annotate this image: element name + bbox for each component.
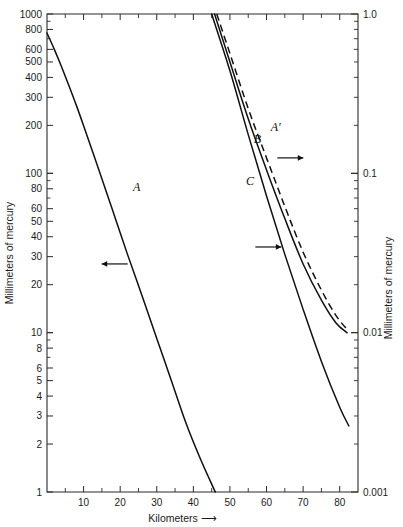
- left-tick-label: 800: [25, 24, 42, 35]
- bottom-tick-label: 40: [188, 497, 200, 508]
- bottom-tick-label: 70: [298, 497, 310, 508]
- left-tick-label: 80: [31, 183, 43, 194]
- left-tick-label: 400: [25, 72, 42, 83]
- right-axis-title: Millimeters of mercury: [382, 236, 394, 339]
- left-tick-label: 40: [31, 231, 43, 242]
- right-tick-label: 0.1: [363, 168, 377, 179]
- left-tick-label: 600: [25, 44, 42, 55]
- left-tick-label: 300: [25, 92, 42, 103]
- left-tick-label: 30: [31, 251, 43, 262]
- left-tick-label: 60: [31, 203, 43, 214]
- right-tick-label: 0.001: [363, 487, 388, 498]
- left-tick-label: 2: [36, 439, 42, 450]
- bottom-tick-label: 80: [334, 497, 346, 508]
- left-tick-label: 10: [31, 327, 43, 338]
- chart-background: [0, 0, 403, 527]
- bottom-tick-label: 30: [151, 497, 163, 508]
- curve-label-b: B: [254, 132, 262, 146]
- pressure-altitude-figure: 1000800600500400300200100806050403020108…: [0, 0, 403, 527]
- right-tick-label: 1.0: [363, 9, 377, 20]
- left-tick-label: 3: [36, 410, 42, 421]
- left-tick-label: 1000: [20, 9, 43, 20]
- left-tick-label: 1: [36, 487, 42, 498]
- left-tick-label: 8: [36, 343, 42, 354]
- left-tick-label: 20: [31, 279, 43, 290]
- left-tick-label: 4: [36, 391, 42, 402]
- chart-canvas: 1000800600500400300200100806050403020108…: [0, 0, 403, 527]
- left-tick-label: 5: [36, 375, 42, 386]
- bottom-axis-title: Kilometers ⟶: [148, 512, 217, 524]
- bottom-tick-label: 20: [115, 497, 127, 508]
- bottom-tick-label: 50: [224, 497, 236, 508]
- left-tick-label: 6: [36, 363, 42, 374]
- left-tick-label: 50: [31, 216, 43, 227]
- curve-label-a: A: [132, 180, 141, 194]
- left-tick-label: 200: [25, 120, 42, 131]
- curve-label-c: C: [246, 174, 255, 188]
- left-axis-title: Millimeters of mercury: [3, 201, 15, 304]
- left-tick-label: 500: [25, 56, 42, 67]
- bottom-tick-label: 60: [261, 497, 273, 508]
- left-tick-label: 100: [25, 168, 42, 179]
- right-tick-label: 0.01: [363, 327, 383, 338]
- curve-label-aprime: A′: [270, 120, 281, 134]
- bottom-tick-label: 10: [78, 497, 90, 508]
